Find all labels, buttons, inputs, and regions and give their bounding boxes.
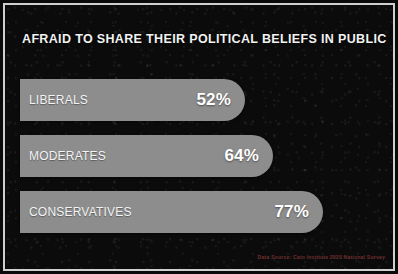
bar-row-liberals: LIBERALS 52% <box>20 79 245 121</box>
bar-value-conservatives: 77% <box>274 202 309 222</box>
bar-value-liberals: 52% <box>196 90 231 110</box>
chart-frame: AFRAID TO SHARE THEIR POLITICAL BELIEFS … <box>3 3 395 271</box>
bar-label-moderates: MODERATES <box>29 149 106 163</box>
bar-conservatives: CONSERVATIVES 77% <box>20 191 323 233</box>
bar-value-moderates: 64% <box>224 146 259 166</box>
bar-row-moderates: MODERATES 64% <box>20 135 273 177</box>
bar-label-liberals: LIBERALS <box>29 93 88 107</box>
bar-moderates: MODERATES 64% <box>20 135 273 177</box>
source-attribution: Data Source: Cato Institute 2020 Nationa… <box>258 254 385 260</box>
chart-figure: AFRAID TO SHARE THEIR POLITICAL BELIEFS … <box>0 0 398 274</box>
bar-series: LIBERALS 52% MODERATES 64% CONSERVATIVES… <box>5 5 393 269</box>
bar-liberals: LIBERALS 52% <box>20 79 245 121</box>
bar-row-conservatives: CONSERVATIVES 77% <box>20 191 323 233</box>
bar-label-conservatives: CONSERVATIVES <box>29 205 132 219</box>
